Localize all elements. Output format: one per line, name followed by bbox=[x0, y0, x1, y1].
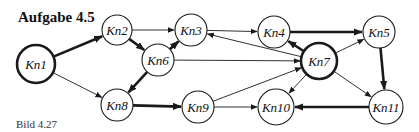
graph-diagram: Aufgabe 4.5 Bild 4.27 Kn1Kn2Kn3Kn4Kn5Kn6… bbox=[0, 0, 419, 132]
edge-kn7-kn5 bbox=[335, 39, 363, 53]
node-kn10: Kn10 bbox=[258, 89, 294, 125]
node-label: Kn5 bbox=[367, 25, 390, 40]
node-label: Kn7 bbox=[307, 54, 330, 69]
edge-kn8-kn9 bbox=[133, 105, 181, 106]
node-kn6: Kn6 bbox=[142, 44, 174, 76]
node-label: Kn9 bbox=[186, 100, 209, 115]
node-label: Kn3 bbox=[179, 23, 202, 38]
node-label: Kn8 bbox=[105, 98, 128, 113]
node-kn2: Kn2 bbox=[102, 15, 132, 45]
edge-kn7-kn10 bbox=[289, 74, 307, 93]
node-kn11: Kn11 bbox=[369, 90, 403, 124]
figure-caption: Bild 4.27 bbox=[16, 118, 57, 130]
edge-kn6-kn8 bbox=[128, 72, 147, 93]
edge-kn7-kn11 bbox=[334, 71, 371, 97]
node-label: Kn1 bbox=[24, 57, 47, 72]
edge-kn6-kn7 bbox=[174, 60, 300, 61]
node-kn7: Kn7 bbox=[301, 43, 337, 79]
edge-kn2-kn6 bbox=[129, 39, 144, 50]
node-kn1: Kn1 bbox=[17, 45, 55, 83]
node-kn3: Kn3 bbox=[175, 14, 207, 46]
task-title: Aufgabe 4.5 bbox=[18, 9, 95, 25]
node-label: Kn2 bbox=[105, 23, 128, 38]
node-kn8: Kn8 bbox=[101, 89, 133, 121]
edge-kn5-kn11 bbox=[380, 48, 384, 89]
edge-kn7-kn4 bbox=[288, 41, 304, 51]
edge-kn6-kn3 bbox=[170, 41, 179, 49]
node-label: Kn4 bbox=[262, 25, 285, 40]
edge-kn3-kn4 bbox=[207, 30, 257, 31]
node-label: Kn6 bbox=[146, 53, 169, 68]
node-label: Kn10 bbox=[261, 100, 291, 115]
node-label: Kn11 bbox=[371, 100, 399, 115]
node-kn4: Kn4 bbox=[258, 16, 290, 48]
edge-kn1-kn2 bbox=[54, 36, 103, 56]
node-kn5: Kn5 bbox=[363, 16, 395, 48]
edge-kn1-kn8 bbox=[53, 73, 102, 98]
node-kn9: Kn9 bbox=[182, 91, 214, 123]
